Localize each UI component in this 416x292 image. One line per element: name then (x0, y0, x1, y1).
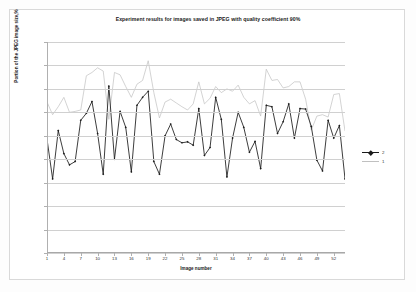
x-tick-label: 13 (107, 256, 121, 261)
series-marker (293, 137, 295, 139)
series-marker (243, 126, 245, 128)
y-tick-mark (44, 183, 47, 184)
plot-area (47, 42, 345, 253)
series-line-1 (47, 61, 345, 131)
series-marker (288, 103, 290, 105)
x-tick-mark (47, 253, 48, 256)
y-gridline (47, 230, 345, 231)
series-marker (215, 96, 217, 98)
series-marker (305, 108, 307, 110)
x-tick-mark (81, 253, 82, 256)
y-axis-title: Portion of the JPEG image size,% (14, 0, 19, 96)
series-line-2 (47, 86, 345, 179)
legend-item-1[interactable]: 1 (362, 157, 398, 166)
series-marker (57, 130, 59, 132)
x-tick-label: 46 (293, 256, 307, 261)
y-tick-mark (44, 42, 47, 43)
x-tick-mark (148, 253, 149, 256)
x-tick-label: 37 (242, 256, 256, 261)
series-marker (226, 176, 228, 178)
x-tick-label: 19 (141, 256, 155, 261)
series-marker (198, 108, 200, 110)
x-tick-mark (249, 253, 250, 256)
x-tick-label: 4 (57, 256, 71, 261)
x-tick-label: 40 (259, 256, 273, 261)
y-gridline (47, 89, 345, 90)
x-tick-label: 7 (74, 256, 88, 261)
x-tick-label: 10 (91, 256, 105, 261)
x-tick-mark (131, 253, 132, 256)
y-gridline (47, 206, 345, 207)
y-gridline (47, 183, 345, 184)
series-marker (97, 132, 99, 134)
y-gridline (47, 159, 345, 160)
x-tick-mark (199, 253, 200, 256)
x-tick-label: 28 (192, 256, 206, 261)
series-marker (102, 173, 104, 175)
x-tick-mark (233, 253, 234, 256)
series-marker (231, 137, 233, 139)
x-tick-mark (64, 253, 65, 256)
x-tick-mark (317, 253, 318, 256)
y-gridline (47, 112, 345, 113)
y-tick-mark (44, 65, 47, 66)
series-marker (52, 178, 54, 180)
x-tick-label: 25 (175, 256, 189, 261)
series-marker (344, 178, 345, 180)
legend-marker (368, 150, 373, 155)
legend-swatch (362, 158, 379, 165)
x-tick-mark (98, 253, 99, 256)
legend-swatch (362, 149, 379, 156)
chart-legend: 21 (362, 148, 398, 166)
y-tick-mark (44, 89, 47, 90)
x-tick-mark (165, 253, 166, 256)
x-tick-label: 52 (327, 256, 341, 261)
y-tick-mark (44, 230, 47, 231)
chart-screenshot: Experiment results for images saved in J… (0, 0, 416, 292)
series-marker (220, 118, 222, 120)
y-tick-mark (44, 112, 47, 113)
series-marker (260, 168, 262, 170)
y-tick-mark (44, 206, 47, 207)
x-tick-mark (216, 253, 217, 256)
series-marker (265, 104, 267, 106)
plot-area-wrapper: 9998,59897,59796,59695,59594,51471013161… (47, 42, 345, 253)
series-marker (125, 126, 127, 128)
y-tick-mark (44, 159, 47, 160)
x-tick-label: 43 (276, 256, 290, 261)
series-marker (327, 119, 329, 121)
legend-label: 2 (382, 150, 384, 155)
x-tick-mark (334, 253, 335, 256)
legend-item-2[interactable]: 2 (362, 148, 398, 157)
series-marker (108, 85, 110, 87)
y-tick-mark (44, 136, 47, 137)
series-marker (299, 108, 301, 110)
y-gridline (47, 136, 345, 137)
x-tick-mark (266, 253, 267, 256)
x-tick-label: 49 (310, 256, 324, 261)
x-tick-mark (182, 253, 183, 256)
x-tick-mark (283, 253, 284, 256)
y-axis-line (47, 42, 48, 253)
x-axis-title: Image number (47, 266, 345, 271)
y-gridline (47, 65, 345, 66)
x-tick-mark (300, 253, 301, 256)
chart-title: Experiment results for images saved in J… (0, 16, 416, 22)
series-marker (271, 106, 273, 108)
legend-label: 1 (382, 159, 384, 164)
x-tick-label: 1 (40, 256, 54, 261)
series-marker (130, 171, 132, 173)
x-tick-label: 31 (209, 256, 223, 261)
y-gridline (47, 42, 345, 43)
x-tick-label: 16 (124, 256, 138, 261)
x-tick-label: 22 (158, 256, 172, 261)
series-layer (47, 42, 345, 253)
legend-line (362, 161, 379, 162)
x-tick-mark (114, 253, 115, 256)
x-tick-label: 34 (226, 256, 240, 261)
